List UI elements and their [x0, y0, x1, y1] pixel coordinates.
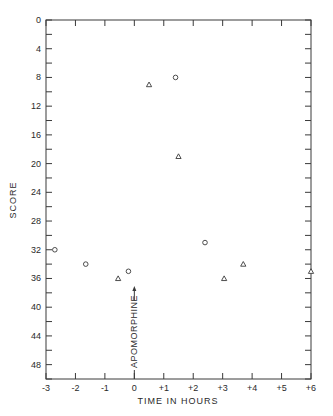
x-tick-label: +2 — [188, 383, 198, 393]
y-tick-label: 28 — [31, 216, 41, 226]
y-tick-label: 4 — [36, 44, 41, 54]
x-tick-label: +6 — [306, 383, 316, 393]
circle-marker — [53, 247, 58, 252]
x-tick-label: -1 — [101, 383, 109, 393]
y-tick-label: 48 — [31, 360, 41, 370]
apomorphine-label: APOMORPHINE — [129, 295, 139, 368]
y-tick-label: 16 — [31, 130, 41, 140]
y-tick-label: 8 — [36, 72, 41, 82]
triangle-marker — [241, 262, 246, 267]
y-tick-label: 32 — [31, 245, 41, 255]
circle-marker — [126, 269, 131, 274]
x-tick-label: 0 — [132, 383, 137, 393]
circle-marker — [83, 262, 88, 267]
data-points — [53, 75, 314, 280]
triangle-marker — [116, 276, 121, 281]
x-tick-label: +1 — [159, 383, 169, 393]
x-axis-ticks: -3-2-10+1+2+3+4+5+6 — [42, 20, 316, 393]
y-tick-label: 20 — [31, 159, 41, 169]
plot-frame — [46, 20, 311, 379]
x-tick-label: -2 — [71, 383, 79, 393]
x-tick-label: +4 — [247, 383, 257, 393]
y-tick-label: 40 — [31, 302, 41, 312]
x-axis-title: TIME IN HOURS — [137, 396, 218, 406]
scatter-chart: 04812162024283236404448 -3-2-10+1+2+3+4+… — [0, 0, 333, 416]
triangle-marker — [308, 269, 313, 274]
apomorphine-annotation: APOMORPHINE — [129, 286, 139, 379]
y-tick-label: 44 — [31, 331, 41, 341]
y-axis-ticks: 04812162024283236404448 — [31, 15, 311, 379]
triangle-marker — [222, 276, 227, 281]
triangle-marker — [176, 154, 181, 159]
x-tick-label: -3 — [42, 383, 50, 393]
y-tick-label: 36 — [31, 273, 41, 283]
y-tick-label: 24 — [31, 187, 41, 197]
circle-marker — [203, 240, 208, 245]
triangle-marker — [146, 82, 151, 87]
y-axis-title: SCORE — [8, 181, 18, 218]
circle-marker — [173, 75, 178, 80]
x-tick-label: +3 — [218, 383, 228, 393]
y-tick-label: 12 — [31, 101, 41, 111]
x-tick-label: +5 — [276, 383, 286, 393]
y-tick-label: 0 — [36, 15, 41, 25]
